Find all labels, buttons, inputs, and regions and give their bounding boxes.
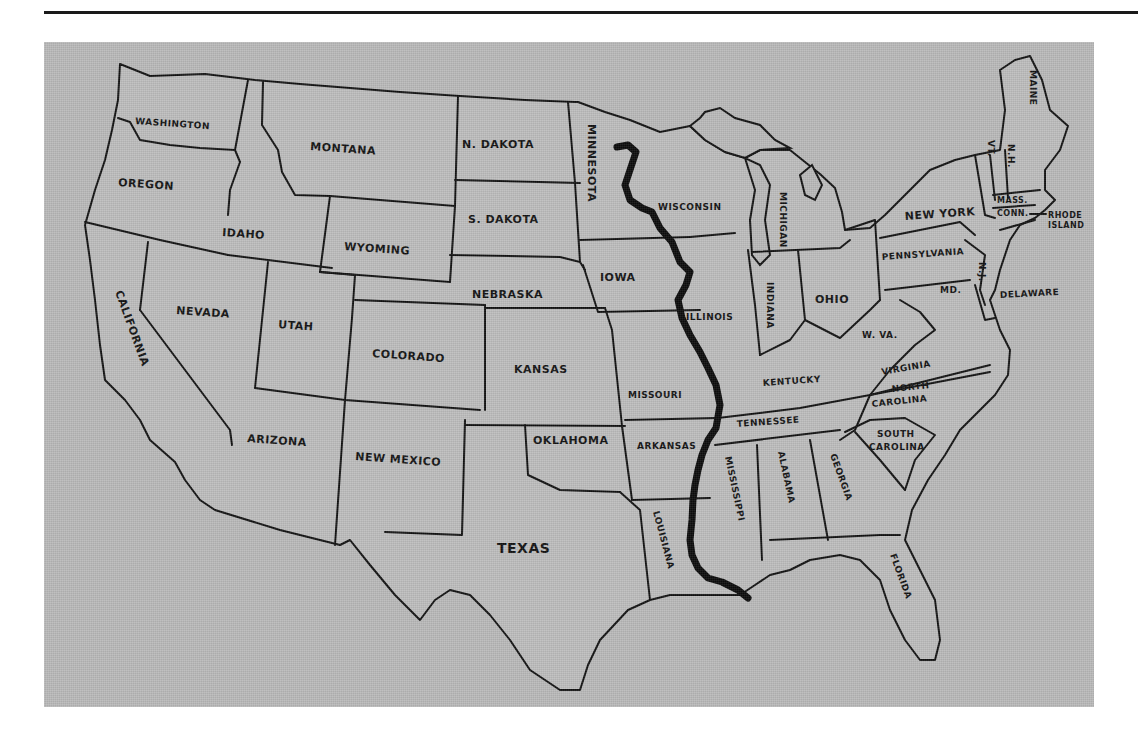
label-minnesota: MINNESOTA xyxy=(585,124,598,202)
label-indiana: INDIANA xyxy=(765,282,775,329)
us-map-panel: WASHINGTON OREGON IDAHO MONTANA WYOMING … xyxy=(44,42,1094,707)
label-new-jersey: N.J. xyxy=(977,262,987,282)
us-map: WASHINGTON OREGON IDAHO MONTANA WYOMING … xyxy=(44,42,1094,707)
label-maryland: MD. xyxy=(940,285,961,295)
label-iowa: IOWA xyxy=(600,271,636,284)
label-north-dakota: N. DAKOTA xyxy=(462,138,534,151)
label-vermont: VT. xyxy=(986,140,996,157)
label-wisconsin: WISCONSIN xyxy=(658,202,721,212)
label-maine: MAINE xyxy=(1028,70,1038,105)
label-massachusetts: MASS. xyxy=(997,196,1028,205)
label-south-carolina-2: CAROLINA xyxy=(869,442,925,452)
label-new-hampshire: N.H. xyxy=(1006,144,1016,168)
label-illinois: ILLINOIS xyxy=(686,312,733,322)
label-utah: UTAH xyxy=(278,318,314,333)
label-south-dakota: S. DAKOTA xyxy=(468,213,539,226)
us-landmass xyxy=(85,56,1068,690)
label-arkansas: ARKANSAS xyxy=(637,441,696,451)
label-nebraska: NEBRASKA xyxy=(472,288,543,301)
label-connecticut: CONN. xyxy=(997,209,1029,218)
label-rhode-island-2: ISLAND xyxy=(1048,221,1084,230)
label-west-virginia: W. VA. xyxy=(862,330,898,340)
label-michigan: MICHIGAN xyxy=(778,192,788,248)
label-kansas: KANSAS xyxy=(514,363,568,376)
label-texas: TEXAS xyxy=(497,540,550,556)
header-rule xyxy=(44,11,1138,14)
label-missouri: MISSOURI xyxy=(628,390,682,400)
label-ohio: OHIO xyxy=(815,293,849,306)
label-oklahoma: OKLAHOMA xyxy=(533,434,608,447)
label-rhode-island-1: RHODE xyxy=(1048,211,1082,220)
label-south-carolina-1: SOUTH xyxy=(877,429,915,439)
label-delaware: DELAWARE xyxy=(1000,287,1060,300)
